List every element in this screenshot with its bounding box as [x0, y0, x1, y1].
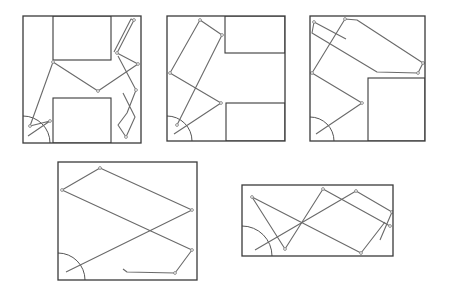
joint-node — [49, 120, 52, 123]
panel-5 — [242, 185, 393, 256]
joint-node — [284, 248, 287, 251]
panel-3 — [310, 16, 425, 141]
obstacle-rect — [368, 78, 425, 141]
joint-node — [313, 21, 316, 24]
joint-node — [97, 90, 100, 93]
joint-node — [422, 62, 425, 65]
joint-node — [61, 189, 64, 192]
trajectory-path — [252, 197, 385, 253]
joint-node — [311, 72, 314, 75]
joint-node — [135, 89, 138, 92]
joint-node — [199, 19, 202, 22]
trajectory-path — [170, 20, 222, 134]
trajectory-path — [255, 191, 392, 250]
obstacle-rect — [53, 98, 111, 143]
joint-node — [169, 72, 172, 75]
joint-node — [137, 63, 140, 66]
joint-node — [220, 102, 223, 105]
reach-arc — [310, 117, 334, 141]
joint-node — [361, 102, 364, 105]
trajectory-path — [118, 56, 136, 137]
trajectory-path — [30, 19, 138, 126]
reach-arc — [23, 116, 50, 143]
joint-node — [29, 125, 32, 128]
joint-node — [133, 19, 136, 22]
joint-node — [116, 52, 119, 55]
joint-node — [191, 209, 194, 212]
joint-node — [344, 18, 347, 21]
joint-node — [52, 61, 55, 64]
joint-node — [417, 72, 420, 75]
obstacle-rect — [225, 16, 285, 53]
joint-node — [174, 272, 177, 275]
panel-4 — [58, 162, 197, 280]
panel-1 — [23, 16, 141, 143]
joint-node — [221, 34, 224, 37]
reach-arc — [58, 253, 85, 280]
joint-node — [191, 249, 194, 252]
obstacle-rect — [226, 103, 285, 141]
joint-node — [360, 252, 363, 255]
panel-2 — [167, 16, 285, 141]
panel-frame — [242, 185, 393, 256]
joint-node — [389, 225, 392, 228]
joint-node — [176, 124, 179, 127]
joint-node — [99, 167, 102, 170]
joint-node — [125, 136, 128, 139]
joint-node — [355, 190, 358, 193]
joint-node — [322, 188, 325, 191]
reach-arc — [242, 226, 272, 256]
joint-node — [251, 196, 254, 199]
figure-canvas — [0, 0, 449, 294]
trajectory-path — [62, 168, 192, 273]
obstacle-rect — [53, 16, 111, 60]
